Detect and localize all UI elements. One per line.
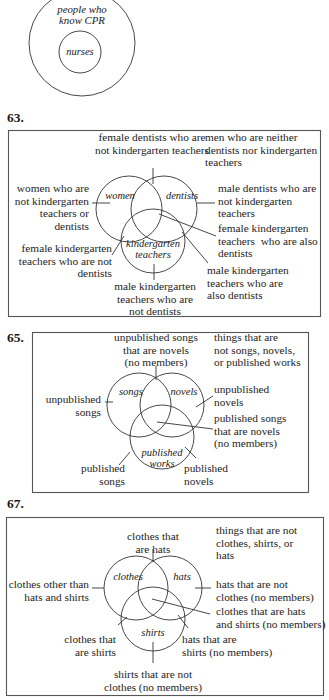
problem-number-63: 63. — [7, 110, 24, 126]
label-65-top: unpublished songs that are novels (no me… — [106, 331, 206, 369]
label-67-bottom-left: clothes that are shirts — [50, 633, 116, 658]
label-63-center-right: female kindergarten teachers who are als… — [218, 222, 320, 260]
label-65-bottom-right: published novels — [184, 462, 254, 487]
hats-circle — [138, 556, 202, 620]
label-67-top-right: things that are not clothes, shirts, or … — [216, 524, 321, 562]
clothes-circle — [104, 556, 168, 620]
problem-number-67: 67. — [7, 496, 24, 512]
circle-label-songs: songs — [113, 386, 149, 397]
label-65-center-right: published songs that are novels (no memb… — [214, 412, 308, 450]
label-67-bottom-right: hats that are shirts (no members) — [182, 633, 287, 658]
circle-label-shirts: shirts — [136, 627, 170, 638]
label-67-top: clothes that are hats — [110, 530, 196, 555]
label-63-right: male dentists who are not kindergarten t… — [218, 182, 320, 220]
shirts-circle — [121, 587, 185, 651]
problem-number-65: 65. — [7, 330, 24, 346]
label-63-bottom: male kindergarten teachers who are not d… — [105, 280, 205, 318]
circle-label-novels: novels — [166, 386, 202, 397]
novels-circle — [140, 373, 204, 437]
label-65-top-right: things that are not songs, novels, or pu… — [214, 331, 308, 369]
circle-label-published-works: published works — [138, 447, 186, 469]
label-63-bottom-left: female kindergarten teachers who are not… — [10, 242, 112, 280]
label-65-left: unpublished songs — [30, 393, 101, 418]
label-67-bottom: shirts that are not clothes (no members) — [98, 668, 208, 693]
label-65-right: unpublished novels — [214, 383, 304, 408]
label-63-top-right: men who are neither dentists nor kinderg… — [205, 131, 320, 169]
label-63-bottom-right: male kindergarten teachers who are also … — [207, 264, 317, 302]
label-65-bottom-left: published songs — [70, 462, 125, 487]
circle-label-clothes: clothes — [109, 571, 147, 582]
cpr-circle-label: people who know CPR — [54, 4, 110, 25]
circle-label-hats: hats — [167, 571, 197, 582]
circle-label-women: women — [100, 190, 140, 201]
label-67-left: clothes other than hats and shirts — [7, 578, 89, 603]
circle-label-kindergarten-teachers: kindergarten teachers — [120, 238, 186, 260]
label-67-right: hats that are not clothes (no members) — [216, 578, 321, 603]
circle-label-dentists: dentists — [162, 190, 202, 201]
dentists-circle — [131, 176, 197, 242]
label-63-left: women who are not kindergarten teachers … — [10, 182, 89, 232]
nurses-circle-label: nurses — [62, 46, 98, 57]
label-67-center-right: clothes that are hats and shirts (no mem… — [216, 605, 324, 630]
